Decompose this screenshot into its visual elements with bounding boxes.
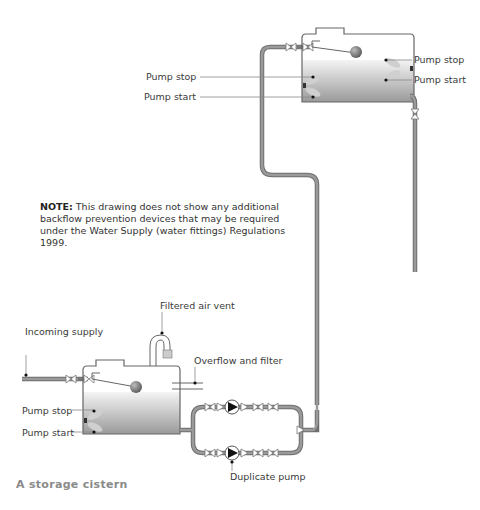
upper-left-pump-start-label: Pump start bbox=[144, 91, 196, 103]
duplicate-pump-label: Duplicate pump bbox=[230, 471, 306, 483]
regulation-note: NOTE: This drawing does not show any add… bbox=[40, 201, 290, 249]
check-valve-icon bbox=[217, 403, 224, 411]
upper-left-pump-stop-label: Pump stop bbox=[146, 71, 196, 83]
float-ball-icon bbox=[350, 46, 362, 58]
figure-caption: A storage cistern bbox=[16, 478, 128, 491]
isolation-valve-icon bbox=[286, 43, 296, 51]
check-valve-icon bbox=[241, 403, 248, 411]
lower-pump-stop-label: Pump stop bbox=[22, 405, 72, 417]
lower-pump-start-label: Pump start bbox=[22, 427, 74, 439]
isolation-valve-icon bbox=[205, 403, 215, 411]
float-ball-icon bbox=[130, 381, 142, 393]
air-filter-icon bbox=[163, 350, 172, 358]
pump-manifold-pipe bbox=[180, 407, 301, 453]
overflow-and-filter-label: Overflow and filter bbox=[194, 355, 282, 367]
upper-right-pump-stop-label: Pump stop bbox=[414, 54, 464, 66]
check-valve-icon bbox=[217, 449, 224, 457]
filtered-air-vent-label: Filtered air vent bbox=[160, 300, 235, 312]
note-text: This drawing does not show any additiona… bbox=[40, 201, 285, 248]
check-valve-icon bbox=[241, 449, 248, 457]
note-label: NOTE: bbox=[40, 201, 73, 212]
isolation-valve-icon bbox=[411, 109, 419, 119]
isolation-valve-icon bbox=[253, 403, 263, 411]
isolation-valve-icon bbox=[268, 403, 278, 411]
isolation-valve-icon bbox=[205, 449, 215, 457]
isolation-valve-icon bbox=[66, 375, 76, 383]
isolation-valve-icon bbox=[253, 449, 263, 457]
upper-right-pump-start-label: Pump start bbox=[414, 74, 466, 86]
incoming-supply-label: Incoming supply bbox=[25, 326, 103, 338]
isolation-valve-icon bbox=[268, 449, 278, 457]
